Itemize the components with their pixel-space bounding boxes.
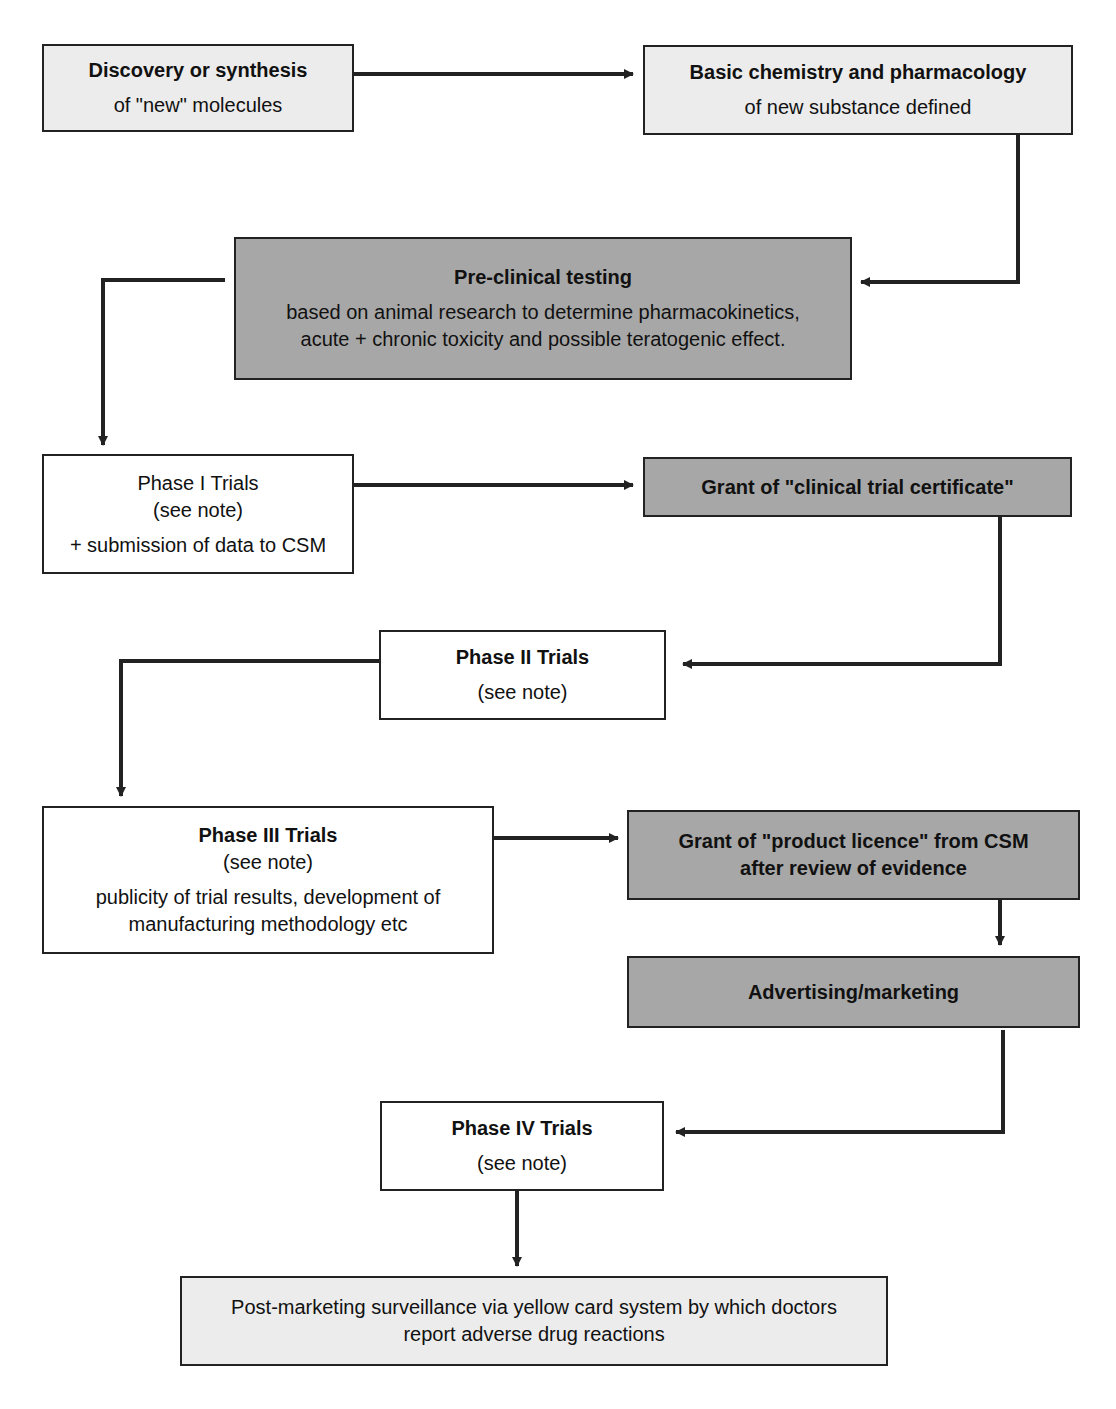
node-note: (see note): [223, 849, 313, 876]
node-line: manufacturing methodology etc: [128, 911, 407, 938]
node-title: Phase IV Trials: [451, 1115, 592, 1142]
node-title: Phase I Trials: [137, 470, 258, 497]
node-clinical-trial-certificate: Grant of "clinical trial certificate": [643, 457, 1072, 517]
node-title: Pre-clinical testing: [454, 264, 632, 291]
node-advertising: Advertising/marketing: [627, 956, 1080, 1028]
node-line: based on animal research to determine ph…: [286, 299, 800, 326]
node-product-licence: Grant of "product licence" from CSM afte…: [627, 810, 1080, 900]
node-phase3: Phase III Trials (see note) publicity of…: [42, 806, 494, 954]
node-title: Grant of "clinical trial certificate": [701, 474, 1013, 501]
arrow-advertising-to-phase4: [676, 1030, 1003, 1132]
node-line: after review of evidence: [740, 855, 967, 882]
arrow-basic-to-preclinical: [861, 135, 1018, 282]
node-note: (see note): [153, 497, 243, 524]
node-subtitle: of new substance defined: [745, 94, 972, 121]
node-note: (see note): [477, 1150, 567, 1177]
node-title: Advertising/marketing: [748, 979, 959, 1006]
node-line: publicity of trial results, development …: [96, 884, 441, 911]
node-title: Discovery or synthesis: [89, 57, 308, 84]
arrow-ctc-to-phase2: [683, 517, 1000, 664]
node-surveillance: Post-marketing surveillance via yellow c…: [180, 1276, 888, 1366]
node-line: report adverse drug reactions: [403, 1321, 664, 1348]
node-title: Phase III Trials: [199, 822, 338, 849]
node-phase2: Phase II Trials (see note): [379, 630, 666, 720]
node-line: acute + chronic toxicity and possible te…: [301, 326, 786, 353]
node-discovery: Discovery or synthesis of "new" molecule…: [42, 44, 354, 132]
node-line: Grant of "product licence" from CSM: [678, 828, 1028, 855]
node-title: Basic chemistry and pharmacology: [690, 59, 1027, 86]
arrow-preclinical-to-phase1: [103, 280, 225, 445]
node-line: Post-marketing surveillance via yellow c…: [231, 1294, 837, 1321]
node-title: Phase II Trials: [456, 644, 589, 671]
node-phase4: Phase IV Trials (see note): [380, 1101, 664, 1191]
node-phase1: Phase I Trials (see note) + submission o…: [42, 454, 354, 574]
node-preclinical: Pre-clinical testing based on animal res…: [234, 237, 852, 380]
node-basic-chemistry: Basic chemistry and pharmacology of new …: [643, 45, 1073, 135]
node-note: (see note): [477, 679, 567, 706]
arrow-phase2-to-phase3: [121, 661, 379, 796]
node-subtitle: of "new" molecules: [114, 92, 283, 119]
node-subtitle: + submission of data to CSM: [70, 532, 326, 559]
